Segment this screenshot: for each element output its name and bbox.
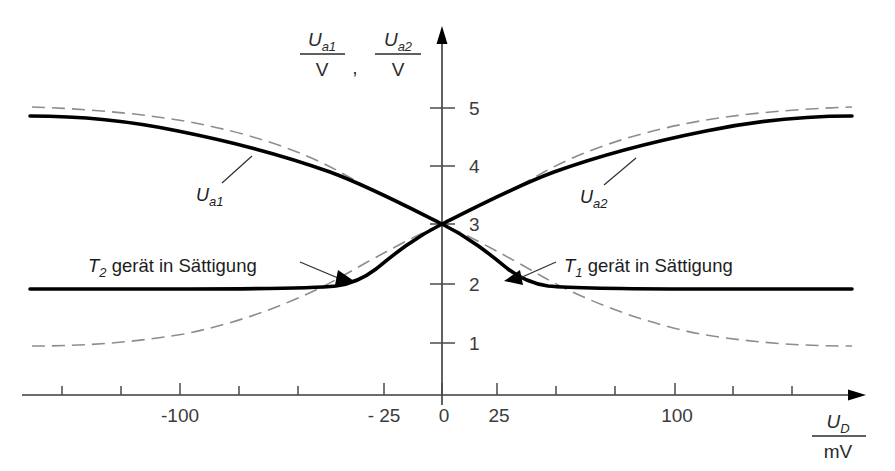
curve-label-ua1-base: U (196, 185, 210, 205)
y-axis-title-den2: V (392, 59, 405, 80)
y-tick-label-3: 3 (469, 214, 480, 235)
y-tick-label-4: 4 (469, 156, 480, 177)
curve-label-ua2-base: U (580, 187, 594, 207)
annotation-t2-body: gerät in Sättigung (107, 255, 257, 276)
y-axis-title-sub2: a2 (398, 39, 413, 54)
annotation-t1-subscript: 1 (575, 265, 582, 280)
chart-figure: -100 - 25 0 25 100 5 4 3 2 1 Ua1 V , Ua2… (0, 0, 895, 471)
y-axis-title-separator: , (352, 57, 357, 78)
annotation-t1-body: gerät in Sättigung (583, 255, 733, 276)
curve-label-ua2-sub: a2 (593, 196, 608, 211)
x-tick-label-zero: 0 (439, 405, 450, 426)
y-axis-title-num2: U (384, 29, 398, 50)
chart-background (0, 0, 895, 471)
x-axis-title-sub: D (840, 421, 849, 436)
y-tick-label-5: 5 (469, 98, 480, 119)
x-axis-title-num: U (826, 411, 840, 432)
x-tick-label-25: 25 (488, 405, 509, 426)
y-axis-title-num1: U (308, 29, 322, 50)
x-tick-label-minus25: - 25 (368, 405, 401, 426)
y-axis-title-sub1: a1 (322, 39, 336, 54)
y-axis-title-den1: V (316, 59, 329, 80)
x-tick-label-100: 100 (661, 405, 693, 426)
curve-label-ua1-sub: a1 (209, 194, 223, 209)
y-tick-label-2: 2 (469, 274, 480, 295)
x-axis-title-den: mV (824, 441, 853, 462)
y-tick-label-1: 1 (469, 333, 480, 354)
chart-svg: -100 - 25 0 25 100 5 4 3 2 1 Ua1 V , Ua2… (0, 0, 895, 471)
x-tick-label-minus100: -100 (161, 405, 199, 426)
